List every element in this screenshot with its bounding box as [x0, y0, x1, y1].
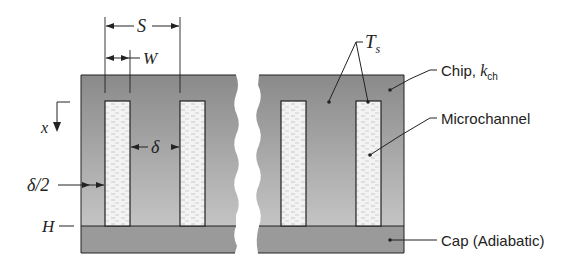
- label-chip: Chip, kch: [441, 62, 498, 82]
- label-x: x: [40, 119, 48, 136]
- left-cap-body: [81, 226, 237, 253]
- left-chip-section: [81, 75, 239, 253]
- callout-cap: Cap (Adiabatic): [388, 232, 544, 249]
- callout-chip: Chip, kch: [388, 62, 498, 92]
- label-delta: δ: [151, 137, 160, 157]
- label-W: W: [143, 49, 159, 68]
- right-channel-2: [356, 101, 381, 226]
- label-S: S: [137, 16, 146, 36]
- label-delta-half: δ/2: [27, 175, 49, 195]
- label-Ts: Ts: [365, 31, 381, 56]
- arrow-down-icon: [53, 122, 61, 132]
- x-axis-indicator: x: [40, 102, 70, 136]
- arrow-right-icon: [121, 55, 129, 61]
- right-channel-1: [281, 101, 306, 226]
- label-H: H: [41, 217, 56, 236]
- label-microchannel: Microchannel: [441, 110, 530, 127]
- arrow-left-icon: [106, 23, 114, 29]
- left-channel-1: [105, 101, 130, 226]
- dimension-H: H: [41, 217, 74, 236]
- microchannel-diagram: S W x δ δ/2 H Ts: [0, 0, 575, 268]
- left-channel-2: [180, 101, 205, 226]
- arrow-right-icon: [171, 23, 179, 29]
- arrow-left-icon: [106, 55, 114, 61]
- right-cap-body: [257, 226, 404, 253]
- label-cap: Cap (Adiabatic): [441, 232, 544, 249]
